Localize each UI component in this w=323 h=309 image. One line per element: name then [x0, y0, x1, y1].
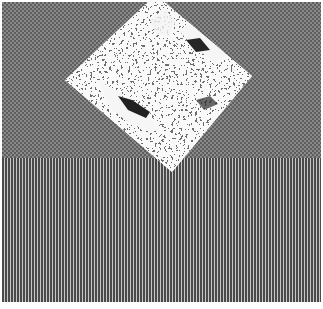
image-canvas [0, 0, 323, 309]
speckled-diamond [0, 0, 323, 309]
